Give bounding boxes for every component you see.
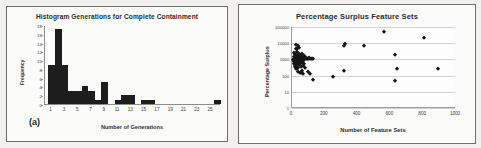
x-tick-label: 0 (290, 111, 293, 116)
y-axis-label-a: Frequency (19, 60, 25, 85)
y-axis-ticks-a: 024681012141618 (25, 26, 42, 105)
histogram-bar (55, 29, 62, 104)
histogram-bar (95, 100, 102, 104)
histogram-bar (88, 91, 95, 104)
x-axis-label-a: Number of Generations (44, 124, 220, 130)
histogram-bar (148, 100, 155, 104)
x-axis-ticks-a: 135791113151719212325 (44, 107, 220, 117)
gridline (292, 43, 455, 44)
y-axis-ticks-b: 110100100010000100000 (267, 27, 289, 108)
scatter-point (393, 79, 398, 84)
histogram-bar (68, 91, 75, 104)
y-tick-label: 1000 (280, 57, 289, 62)
panel-scatter: Percentage Surplus Feature Sets 11010010… (238, 4, 476, 144)
x-tick-label: 23 (194, 107, 199, 112)
x-tick-label: 200 (320, 111, 328, 116)
histogram-bar (62, 65, 69, 105)
plot-area-histogram (44, 26, 220, 105)
x-tick-label: 600 (386, 111, 394, 116)
x-tick-label: 3 (63, 107, 66, 112)
x-axis-ticks-b: 02004006008001000 (291, 111, 455, 121)
y-tick-label: 1 (287, 106, 289, 111)
x-tick-label: 9 (102, 107, 105, 112)
histogram-bar (101, 82, 108, 104)
plot-area-scatter (291, 27, 455, 108)
scatter-point (395, 67, 400, 72)
scatter-point (422, 36, 427, 41)
histogram-bar (115, 100, 122, 104)
histogram-bar (141, 100, 148, 104)
y-tick-label: 100 (282, 73, 289, 78)
y-axis-label-b: Percentage Surplus (264, 46, 270, 97)
gridline (292, 92, 455, 93)
figure-background: Histogram Generations for Complete Conta… (0, 0, 481, 148)
histogram-bar (214, 100, 221, 104)
scatter-point (331, 75, 336, 80)
gridline (292, 76, 455, 77)
x-tick-label: 21 (181, 107, 186, 112)
scatter-point (343, 42, 348, 47)
x-tick-label: 800 (418, 111, 426, 116)
x-axis-label-b: Number of Feature Sets (291, 127, 455, 133)
scatter-point (393, 53, 398, 58)
chart-title-a: Histogram Generations for Complete Conta… (7, 13, 227, 20)
gridline (292, 108, 455, 109)
histogram-bar (82, 86, 89, 104)
scatter-point (381, 29, 386, 34)
x-tick-label: 5 (76, 107, 79, 112)
gridline (292, 27, 455, 28)
x-tick-label: 7 (89, 107, 92, 112)
x-tick-label: 1000 (450, 111, 460, 116)
scatter-point (311, 77, 316, 82)
subfigure-caption-a: (a) (29, 117, 40, 127)
x-tick-label: 400 (353, 111, 361, 116)
x-tick-label: 15 (141, 107, 146, 112)
histogram-bar (48, 65, 55, 105)
chart-title-b: Percentage Surplus Feature Sets (239, 12, 475, 21)
scatter-point (436, 66, 441, 71)
x-tick-label: 25 (207, 107, 212, 112)
gridline (292, 59, 455, 60)
x-tick-label: 1 (49, 107, 52, 112)
scatter-point (342, 68, 347, 73)
x-tick-label: 13 (128, 107, 133, 112)
x-tick-label: 17 (154, 107, 159, 112)
histogram-bar (128, 95, 135, 104)
histogram-bar (75, 91, 82, 104)
histogram-bar (121, 95, 128, 104)
panel-histogram: Histogram Generations for Complete Conta… (6, 6, 228, 142)
x-tick-label: 19 (168, 107, 173, 112)
y-tick-label: 10 (284, 89, 289, 94)
x-tick-label: 11 (115, 107, 120, 112)
y-tick-label: 100000 (275, 25, 289, 30)
y-tick-label: 10000 (277, 41, 289, 46)
